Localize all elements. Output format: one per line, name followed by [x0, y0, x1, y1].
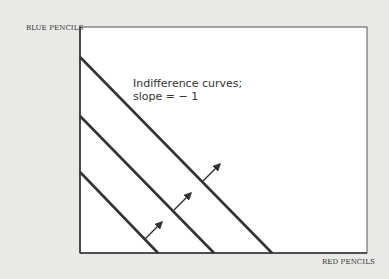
indifference-curve-diagram: [0, 0, 389, 279]
x-axis-label: RED PENCILS: [322, 258, 375, 266]
annotation: Indifference curves; slope = − 1: [133, 77, 242, 103]
plot-area: [80, 27, 367, 253]
annotation-line-1: Indifference curves;: [133, 77, 242, 90]
y-axis-label: BLUE PENCILS: [26, 24, 83, 32]
annotation-line-2: slope = − 1: [133, 90, 242, 103]
